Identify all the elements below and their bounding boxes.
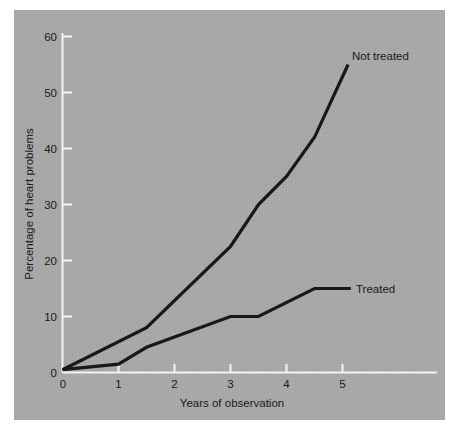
y-tick-label-10: 10	[44, 311, 57, 323]
series-line-not-treated	[63, 65, 349, 370]
x-tick-label-2: 2	[171, 378, 177, 390]
series-line-treated	[63, 289, 351, 370]
y-tick-label-50: 50	[44, 87, 57, 99]
series-lines	[63, 65, 351, 370]
x-axis-title: Years of observation	[180, 397, 284, 409]
series-label-not-treated: Not treated	[352, 50, 409, 62]
y-tick-label-40: 40	[44, 143, 57, 155]
y-axis-title: Percentage of heart problems	[23, 128, 35, 280]
y-tick-label-30: 30	[44, 199, 57, 211]
x-tick-label-5: 5	[339, 378, 345, 390]
x-axis-tick-labels: 0 1 2 3 4 5	[60, 378, 346, 390]
line-chart: 60 50 40 30 20 10 0 0 1 2 3 4 5 Years of…	[0, 0, 459, 432]
x-axis-ticks	[119, 364, 343, 372]
x-tick-label-4: 4	[283, 378, 290, 390]
x-tick-label-0: 0	[60, 378, 66, 390]
figure: 60 50 40 30 20 10 0 0 1 2 3 4 5 Years of…	[0, 0, 459, 432]
y-axis-ticks	[63, 37, 72, 317]
y-tick-label-0: 0	[51, 367, 57, 379]
y-axis-tick-labels: 60 50 40 30 20 10 0	[44, 31, 57, 380]
y-tick-label-60: 60	[44, 31, 57, 43]
x-tick-label-3: 3	[227, 378, 233, 390]
series-label-treated: Treated	[356, 283, 395, 295]
x-tick-label-1: 1	[115, 378, 121, 390]
y-tick-label-20: 20	[44, 255, 57, 267]
